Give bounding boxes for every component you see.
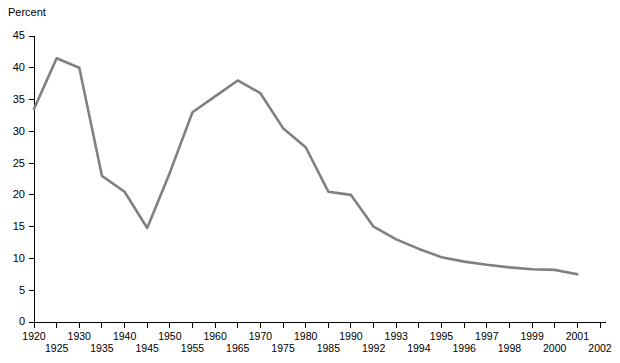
y-axis-tick-label: 15 <box>13 220 25 232</box>
y-axis-tick-label: 10 <box>13 252 25 264</box>
x-axis-tick-label: 1985 <box>317 342 341 354</box>
x-axis-tick-label: 1920 <box>22 330 46 342</box>
x-axis-tick-label: 1993 <box>385 330 409 342</box>
y-axis-tick-label: 30 <box>13 125 25 137</box>
x-axis-tick-label: 1950 <box>158 330 182 342</box>
x-axis-tick-label: 1990 <box>339 330 363 342</box>
y-axis-ticks <box>29 36 34 322</box>
y-axis-tick-label: 40 <box>13 61 25 73</box>
y-axis-tick-label: 45 <box>13 29 25 41</box>
y-axis-tick-labels: 051015202530354045 <box>13 29 25 327</box>
chart-plot-area: 051015202530354045 192019251930193519401… <box>0 0 620 363</box>
y-axis-tick-label: 20 <box>13 188 25 200</box>
x-axis-tick-label: 2000 <box>543 342 567 354</box>
line-chart: Percent 051015202530354045 1920192519301… <box>0 0 620 363</box>
data-series-group <box>34 58 577 274</box>
y-axis-tick-label: 5 <box>19 284 25 296</box>
x-axis-tick-label: 1994 <box>407 342 431 354</box>
x-axis-tick-label: 1999 <box>520 330 544 342</box>
x-axis-tick-label: 2002 <box>588 342 612 354</box>
x-axis-tick-label: 1945 <box>136 342 160 354</box>
x-axis-tick-label: 2001 <box>566 330 590 342</box>
y-axis-tick-label: 35 <box>13 93 25 105</box>
x-axis-tick-label: 1955 <box>181 342 205 354</box>
x-axis-tick-label: 1997 <box>475 330 499 342</box>
x-axis-tick-labels: 1920192519301935194019451950195519601965… <box>22 330 612 354</box>
x-axis-tick-label: 1925 <box>45 342 69 354</box>
data-series-line <box>34 58 577 274</box>
x-axis-tick-label: 1995 <box>430 330 454 342</box>
x-axis-tick-label: 1980 <box>294 330 318 342</box>
x-axis-ticks <box>34 322 600 328</box>
x-axis-tick-label: 1965 <box>226 342 250 354</box>
x-axis-tick-label: 1975 <box>271 342 295 354</box>
x-axis-tick-label: 1970 <box>249 330 273 342</box>
x-axis-tick-label: 1992 <box>362 342 386 354</box>
x-axis-tick-label: 1996 <box>452 342 476 354</box>
y-axis-tick-label: 25 <box>13 157 25 169</box>
x-axis-tick-label: 1960 <box>203 330 227 342</box>
x-axis-tick-label: 1935 <box>90 342 114 354</box>
x-axis-tick-label: 1930 <box>68 330 92 342</box>
x-axis-tick-label: 1998 <box>498 342 522 354</box>
x-axis-tick-label: 1940 <box>113 330 137 342</box>
y-axis-tick-label: 0 <box>19 315 25 327</box>
